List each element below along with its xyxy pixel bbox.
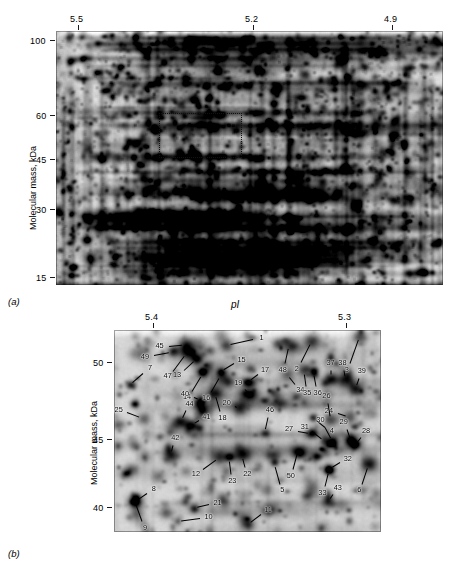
panel-b-ytick-mark-0 (107, 362, 112, 363)
panel-b-xtick-mark-1 (346, 323, 347, 328)
panel-a-xtick-label-1: 5.2 (245, 14, 258, 24)
panel-b-ytick-label-0: 50 (93, 358, 103, 368)
panel-a-ytick-mark-0 (50, 40, 55, 41)
panel-a-ytick-label-0: 100 (30, 36, 46, 46)
panel-a-ytick-label-1: 60 (36, 111, 46, 121)
panel-b-ytick-mark-1 (107, 439, 112, 440)
panel-a-y-axis-title: Molecular mass, kDa (28, 146, 38, 230)
panel-b-x-axis-title: pI (231, 299, 239, 310)
panel-b-xtick-mark-0 (153, 323, 154, 328)
panel-a-xtick-mark-1 (253, 25, 254, 30)
panel-a-ytick-mark-4 (50, 277, 55, 278)
panel-b-ytick-mark-2 (107, 507, 112, 508)
panel-a-caption: (a) (8, 296, 20, 307)
figure-2de-gel: 5.5 5.2 4.9 100 60 45 30 15 Molecular ma… (0, 0, 452, 567)
panel-a-xtick-label-2: 4.9 (384, 14, 397, 24)
panel-a-gel-image (56, 31, 443, 285)
panel-a-ytick-mark-3 (50, 209, 55, 210)
panel-a-ytick-mark-2 (50, 159, 55, 160)
panel-b-gel-image (114, 330, 381, 532)
panel-b-xtick-label-1: 5.3 (338, 312, 351, 322)
panel-b-ytick-label-2: 40 (93, 503, 103, 513)
panel-b-xtick-label-0: 5.4 (145, 312, 158, 322)
panel-a-xtick-label-0: 5.5 (70, 14, 83, 24)
panel-a-xtick-mark-0 (78, 25, 79, 30)
panel-a-ytick-mark-1 (50, 115, 55, 116)
panel-b-y-axis-title: Molecular mass, kDa (89, 401, 99, 485)
panel-b-caption: (b) (8, 548, 20, 559)
panel-a-xtick-mark-2 (392, 25, 393, 30)
panel-a-ytick-label-4: 15 (36, 273, 46, 283)
